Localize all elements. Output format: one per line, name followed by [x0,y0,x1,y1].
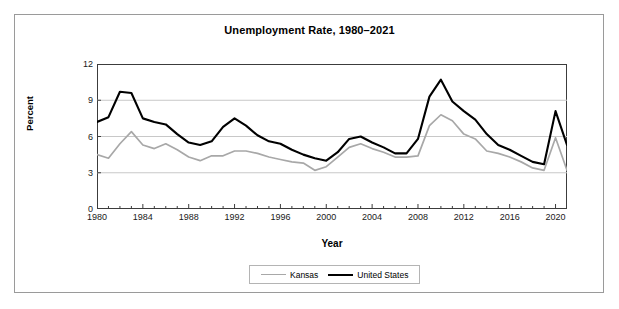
y-tick-label: 12 [67,59,93,69]
x-tick-label: 2016 [490,212,530,222]
y-axis-title: Percent [24,79,35,149]
x-tick-label: 2012 [444,212,484,222]
legend-label: Kansas [290,270,318,280]
x-tick-label: 1992 [215,212,255,222]
x-tick-label: 2008 [398,212,438,222]
x-tick-label: 2020 [536,212,576,222]
x-tick-label: 1984 [123,212,163,222]
chart-figure: Unemployment Rate, 1980–2021 Percent 036… [0,0,619,309]
x-tick-label: 2000 [306,212,346,222]
x-tick-label: 1988 [169,212,209,222]
x-axis-tick-marks [97,204,567,209]
x-axis-tick-labels: 1980198419881992199620002004200820122016… [97,212,567,226]
y-tick-label: 9 [67,95,93,105]
x-tick-label: 1996 [260,212,300,222]
y-axis-tick-marks [97,64,101,209]
plot-wrapper [97,64,567,209]
series-line-united-states [97,80,567,165]
y-tick-label: 3 [67,168,93,178]
legend-label: United States [357,270,408,280]
y-tick-label: 6 [67,132,93,142]
data-series-layer [97,80,567,171]
chart-legend: KansasUnited States [249,265,420,284]
chart-title: Unemployment Rate, 1980–2021 [0,24,619,36]
plot-lines [97,64,567,209]
x-tick-label: 2004 [352,212,392,222]
x-tick-label: 1980 [77,212,117,222]
legend-item-united-states: United States [328,270,408,280]
legend-swatch-icon [261,274,286,275]
legend-swatch-icon [328,274,353,276]
y-axis-tick-labels: 036912 [63,64,93,209]
x-axis-title: Year [97,238,567,249]
legend-item-kansas: Kansas [261,270,318,280]
